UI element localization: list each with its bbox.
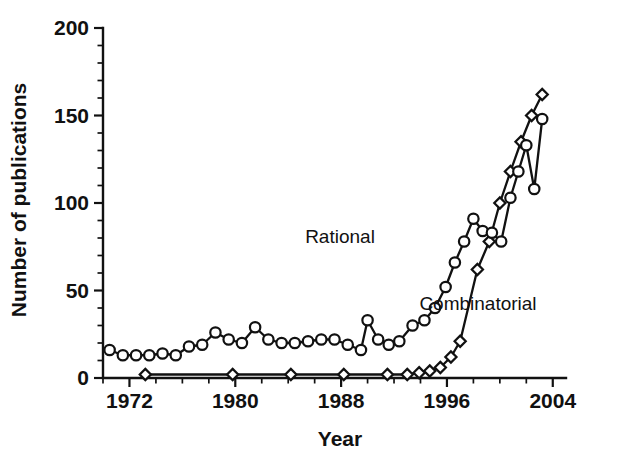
data-point-marker xyxy=(131,350,141,360)
data-point-marker xyxy=(394,336,404,346)
x-tick-label: 1980 xyxy=(212,389,259,412)
y-tick-label: 50 xyxy=(66,279,89,302)
publications-line-chart: 050100150200 19721980198819962004 Number… xyxy=(0,0,625,458)
data-point-marker xyxy=(210,327,220,337)
data-point-marker xyxy=(537,114,547,124)
data-point-marker xyxy=(537,89,548,100)
data-point-marker xyxy=(184,341,194,351)
data-point-marker xyxy=(373,334,383,344)
data-point-marker xyxy=(276,338,286,348)
data-point-marker xyxy=(118,350,128,360)
y-tick-label: 150 xyxy=(54,104,89,127)
data-point-marker xyxy=(459,236,469,246)
data-point-marker xyxy=(494,197,505,208)
data-point-marker xyxy=(144,350,154,360)
x-tick-label: 2004 xyxy=(529,389,576,412)
data-point-marker xyxy=(496,236,506,246)
data-point-marker xyxy=(316,334,326,344)
data-point-marker xyxy=(529,184,539,194)
y-axis-title: Number of publications xyxy=(7,83,30,318)
data-point-marker xyxy=(513,166,523,176)
data-point-marker xyxy=(343,340,353,350)
chart-canvas: 050100150200 19721980198819962004 Number… xyxy=(0,0,625,458)
data-point-marker xyxy=(487,228,497,238)
y-tick-label: 100 xyxy=(54,191,89,214)
x-tick-label: 1996 xyxy=(424,389,471,412)
data-point-marker xyxy=(450,257,460,267)
data-point-marker xyxy=(414,367,425,378)
data-point-marker xyxy=(197,340,207,350)
data-point-marker xyxy=(263,334,273,344)
data-point-marker xyxy=(237,338,247,348)
data-point-marker xyxy=(171,350,181,360)
data-point-marker xyxy=(157,348,167,358)
data-point-marker xyxy=(419,315,429,325)
data-point-marker xyxy=(104,345,114,355)
x-axis-tick-labels: 19721980198819962004 xyxy=(106,389,576,412)
data-point-marker xyxy=(290,338,300,348)
x-tick-label: 1988 xyxy=(318,389,365,412)
series-label-rational: Rational xyxy=(305,226,375,247)
x-axis-title: Year xyxy=(318,427,362,450)
data-point-marker xyxy=(407,320,417,330)
data-point-marker xyxy=(356,345,366,355)
data-point-marker xyxy=(455,336,466,347)
data-point-marker xyxy=(329,334,339,344)
data-point-marker xyxy=(472,264,483,275)
y-axis-tick-labels: 050100150200 xyxy=(54,16,89,389)
data-point-marker xyxy=(526,110,537,121)
data-point-marker xyxy=(468,214,478,224)
series-label-combinatorial: Combinatorial xyxy=(419,293,536,314)
data-point-marker xyxy=(362,315,372,325)
data-point-marker xyxy=(223,334,233,344)
data-point-marker xyxy=(384,340,394,350)
y-tick-label: 200 xyxy=(54,16,89,39)
data-point-marker xyxy=(505,193,515,203)
data-point-marker xyxy=(521,140,531,150)
data-point-marker xyxy=(440,282,450,292)
y-tick-label: 0 xyxy=(77,366,89,389)
data-point-marker xyxy=(250,322,260,332)
x-tick-label: 1972 xyxy=(106,389,153,412)
axis-ticks xyxy=(94,28,553,387)
data-point-marker xyxy=(303,336,313,346)
